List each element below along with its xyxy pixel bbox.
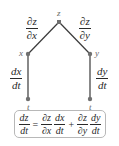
edge-label-dx-dt: dx dt: [10, 66, 22, 91]
plus-sign: +: [67, 119, 75, 130]
edge-label-dy-dt: dy dt: [96, 66, 108, 91]
formula-term2a: ∂z ∂y: [77, 113, 88, 136]
label-z: z: [57, 9, 61, 18]
node-y: [88, 52, 92, 56]
node-t-right: [88, 97, 92, 101]
edge-label-dz-dy: ∂z ∂y: [79, 16, 91, 41]
formula-term2b: dy dt: [90, 113, 101, 136]
edge-label-dz-dx: ∂z ∂x: [26, 16, 38, 41]
node-x: [26, 52, 30, 56]
node-t-left: [26, 97, 30, 101]
chain-rule-formula-box: dz dt = ∂z ∂x dx dt + ∂z ∂y dy dt: [14, 110, 106, 138]
node-z: [57, 20, 61, 24]
formula-lhs: dz dt: [19, 113, 30, 136]
equals-sign: =: [32, 119, 40, 130]
formula-term1a: ∂z ∂x: [41, 113, 52, 136]
label-x: x: [19, 49, 23, 58]
label-y: y: [95, 49, 99, 58]
formula-term1b: dx dt: [54, 113, 65, 136]
